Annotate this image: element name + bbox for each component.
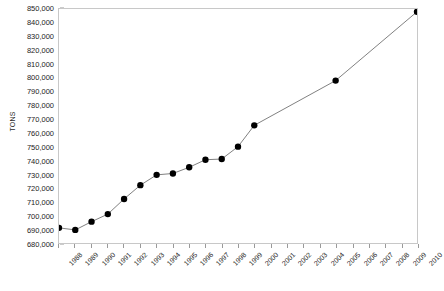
x-tick-label: 2010 (428, 251, 444, 267)
x-tick-label: 2007 (378, 251, 394, 267)
data-point (153, 172, 159, 178)
x-tick-mark (254, 244, 255, 248)
x-tick-mark (222, 244, 223, 248)
y-tick-label: 700,000 (27, 212, 54, 221)
x-tick-label: 1999 (248, 251, 264, 267)
data-point (72, 227, 78, 233)
y-tick-label: 750,000 (27, 142, 54, 151)
x-tick-label: 2005 (346, 251, 362, 267)
data-point (137, 182, 143, 188)
x-tick-label: 1989 (84, 251, 100, 267)
x-tick-mark (205, 244, 206, 248)
plot-area (58, 8, 418, 244)
x-tick-label: 1992 (133, 251, 149, 267)
x-tick-label: 1991 (117, 251, 133, 267)
x-tick-label: 1990 (100, 251, 116, 267)
x-tick-label: 2000 (264, 251, 280, 267)
x-tick-mark (189, 244, 190, 248)
x-tick-label: 2001 (280, 251, 296, 267)
series-plot (59, 9, 417, 243)
x-tick-mark (107, 244, 108, 248)
x-tick-mark (287, 244, 288, 248)
x-tick-mark (140, 244, 141, 248)
x-tick-mark (303, 244, 304, 248)
x-tick-label: 1988 (68, 251, 84, 267)
x-tick-mark (58, 244, 59, 248)
data-point (202, 157, 208, 163)
y-tick-label: 780,000 (27, 101, 54, 110)
x-axis: 1988198919901991199219931994199519961997… (58, 244, 418, 291)
x-tick-mark (74, 244, 75, 248)
x-tick-mark (418, 244, 419, 248)
x-tick-label: 2003 (313, 251, 329, 267)
x-tick-label: 1998 (231, 251, 247, 267)
y-tick-label: 690,000 (27, 226, 54, 235)
y-tick-label: 850,000 (27, 4, 54, 13)
x-tick-label: 2008 (395, 251, 411, 267)
data-point (88, 218, 94, 224)
data-point (332, 77, 338, 83)
y-tick-label: 800,000 (27, 73, 54, 82)
data-point (219, 156, 225, 162)
y-tick-label: 710,000 (27, 198, 54, 207)
x-tick-label: 2009 (411, 251, 427, 267)
y-tick-label: 680,000 (27, 240, 54, 249)
x-tick-label: 2006 (362, 251, 378, 267)
y-tick-label: 730,000 (27, 170, 54, 179)
x-tick-mark (353, 244, 354, 248)
x-tick-label: 1997 (215, 251, 231, 267)
x-tick-label: 1995 (182, 251, 198, 267)
x-tick-mark (320, 244, 321, 248)
x-tick-mark (238, 244, 239, 248)
series-line (59, 12, 417, 230)
x-tick-mark (385, 244, 386, 248)
x-tick-mark (91, 244, 92, 248)
data-point (170, 170, 176, 176)
x-tick-mark (123, 244, 124, 248)
y-tick-label: 720,000 (27, 184, 54, 193)
data-point (235, 143, 241, 149)
x-tick-label: 1993 (149, 251, 165, 267)
x-tick-label: 2002 (297, 251, 313, 267)
x-tick-label: 2004 (329, 251, 345, 267)
y-tick-label: 740,000 (27, 156, 54, 165)
x-tick-mark (156, 244, 157, 248)
y-tick-label: 840,000 (27, 17, 54, 26)
x-tick-mark (271, 244, 272, 248)
data-point (186, 164, 192, 170)
y-tick-label: 760,000 (27, 128, 54, 137)
x-tick-mark (369, 244, 370, 248)
x-tick-mark (402, 244, 403, 248)
series-markers (59, 9, 417, 233)
x-tick-label: 1994 (166, 251, 182, 267)
data-point (121, 196, 127, 202)
y-tick-label: 790,000 (27, 87, 54, 96)
data-point (251, 122, 257, 128)
x-tick-label: 1996 (198, 251, 214, 267)
x-tick-mark (336, 244, 337, 248)
y-tick-label: 820,000 (27, 45, 54, 54)
y-axis-tick-labels: 850,000840,000830,000820,000810,000800,0… (6, 8, 54, 244)
data-point (105, 211, 111, 217)
y-tick-label: 810,000 (27, 59, 54, 68)
x-tick-mark (173, 244, 174, 248)
y-tick-label: 830,000 (27, 31, 54, 40)
y-tick-label: 770,000 (27, 115, 54, 124)
data-point (59, 225, 62, 231)
